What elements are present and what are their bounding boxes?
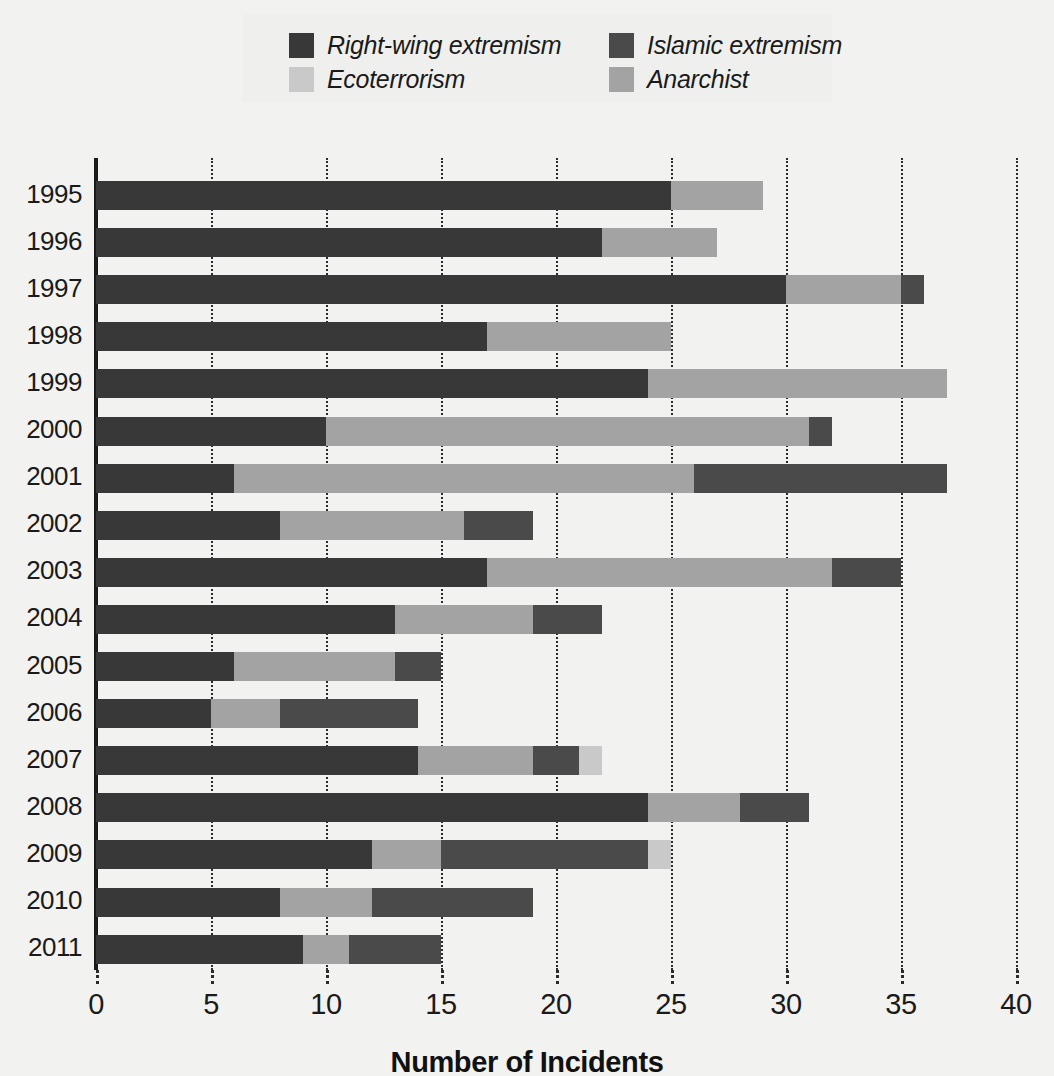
x-tick-label-0: 0 xyxy=(88,988,104,1021)
bar-segment-2005-right-wing-extremism[interactable] xyxy=(96,652,234,681)
bar-row-2005[interactable] xyxy=(0,652,1054,681)
bar-segment-2001-right-wing-extremism[interactable] xyxy=(96,464,234,493)
x-tick-label-40: 40 xyxy=(1000,988,1031,1021)
bar-segment-2006-anarchist[interactable] xyxy=(211,699,280,728)
bar-row-2004[interactable] xyxy=(0,605,1054,634)
legend-swatch-anarchist-icon xyxy=(609,67,634,92)
bar-segment-2006-islamic-extremism[interactable] xyxy=(280,699,418,728)
bar-segment-2003-right-wing-extremism[interactable] xyxy=(96,558,487,587)
bar-segment-2001-anarchist[interactable] xyxy=(234,464,694,493)
legend-swatch-islamic-icon xyxy=(609,33,634,58)
bar-segment-2004-islamic-extremism[interactable] xyxy=(533,605,602,634)
bar-row-1996[interactable] xyxy=(0,228,1054,257)
x-tick-mark-20 xyxy=(556,970,559,984)
bar-row-1995[interactable] xyxy=(0,181,1054,210)
x-axis-title: Number of Incidents xyxy=(0,1046,1054,1076)
x-tick-mark-5 xyxy=(211,970,214,984)
bar-segment-2009-islamic-extremism[interactable] xyxy=(441,840,648,869)
bar-segment-2008-anarchist[interactable] xyxy=(648,793,740,822)
legend-swatch-ecoterrorism-icon xyxy=(289,67,314,92)
bar-segment-2011-islamic-extremism[interactable] xyxy=(349,935,441,964)
chart-bars xyxy=(0,150,1054,965)
x-axis-tick-labels: 0510152025303540 xyxy=(0,988,1054,1028)
chart-plot-area: 1995199619971998199920002001200220032004… xyxy=(0,150,1054,1070)
bar-segment-1997-islamic-extremism[interactable] xyxy=(901,275,924,304)
legend-label-anarchist: Anarchist xyxy=(647,65,749,94)
legend-label-islamic: Islamic extremism xyxy=(647,31,842,60)
bar-segment-2003-anarchist[interactable] xyxy=(487,558,832,587)
legend-grid: Right-wing extremism Islamic extremism E… xyxy=(289,28,832,96)
x-tick-mark-40 xyxy=(1016,970,1019,984)
x-tick-label-10: 10 xyxy=(310,988,341,1021)
bar-segment-1996-right-wing-extremism[interactable] xyxy=(96,228,602,257)
legend-label-right-wing: Right-wing extremism xyxy=(327,31,561,60)
x-tick-mark-15 xyxy=(441,970,444,984)
legend-swatch-right-wing-icon xyxy=(289,33,314,58)
x-tick-label-20: 20 xyxy=(540,988,571,1021)
legend-entry-right-wing-extremism: Right-wing extremism xyxy=(289,31,609,60)
bar-segment-2009-anarchist[interactable] xyxy=(372,840,441,869)
legend-label-ecoterrorism: Ecoterrorism xyxy=(327,65,465,94)
legend-entry-ecoterrorism: Ecoterrorism xyxy=(289,65,609,94)
bar-segment-2007-right-wing-extremism[interactable] xyxy=(96,746,418,775)
bar-segment-2002-anarchist[interactable] xyxy=(280,511,464,540)
bar-segment-2010-right-wing-extremism[interactable] xyxy=(96,888,280,917)
bar-segment-2003-islamic-extremism[interactable] xyxy=(832,558,901,587)
bar-row-1999[interactable] xyxy=(0,369,1054,398)
bar-segment-1998-anarchist[interactable] xyxy=(487,322,671,351)
x-tick-label-30: 30 xyxy=(770,988,801,1021)
legend-entry-islamic-extremism: Islamic extremism xyxy=(609,31,842,60)
bar-segment-1995-anarchist[interactable] xyxy=(671,181,763,210)
bar-segment-2001-islamic-extremism[interactable] xyxy=(694,464,947,493)
bar-segment-2007-anarchist[interactable] xyxy=(418,746,533,775)
bar-segment-1999-anarchist[interactable] xyxy=(648,369,947,398)
bar-segment-1995-right-wing-extremism[interactable] xyxy=(96,181,671,210)
bar-row-2006[interactable] xyxy=(0,699,1054,728)
bar-segment-2010-anarchist[interactable] xyxy=(280,888,372,917)
bar-row-2011[interactable] xyxy=(0,935,1054,964)
bar-segment-1997-right-wing-extremism[interactable] xyxy=(96,275,786,304)
x-tick-mark-30 xyxy=(786,970,789,984)
bar-row-2002[interactable] xyxy=(0,511,1054,540)
bar-segment-2005-anarchist[interactable] xyxy=(234,652,395,681)
bar-row-2003[interactable] xyxy=(0,558,1054,587)
bar-row-2008[interactable] xyxy=(0,793,1054,822)
bar-row-2009[interactable] xyxy=(0,840,1054,869)
bar-segment-1999-right-wing-extremism[interactable] xyxy=(96,369,648,398)
bar-row-1998[interactable] xyxy=(0,322,1054,351)
bar-segment-2010-islamic-extremism[interactable] xyxy=(372,888,533,917)
legend-entry-anarchist: Anarchist xyxy=(609,65,842,94)
bar-row-2000[interactable] xyxy=(0,417,1054,446)
x-axis-tick-marks xyxy=(0,970,1054,986)
bar-segment-2004-anarchist[interactable] xyxy=(395,605,533,634)
bar-segment-2011-right-wing-extremism[interactable] xyxy=(96,935,303,964)
x-tick-label-15: 15 xyxy=(425,988,456,1021)
bar-segment-1996-anarchist[interactable] xyxy=(602,228,717,257)
bar-segment-2002-right-wing-extremism[interactable] xyxy=(96,511,280,540)
bar-segment-1997-anarchist[interactable] xyxy=(786,275,901,304)
bar-segment-2005-islamic-extremism[interactable] xyxy=(395,652,441,681)
bar-segment-2000-islamic-extremism[interactable] xyxy=(809,417,832,446)
bar-segment-2009-ecoterrorism[interactable] xyxy=(648,840,671,869)
bar-row-2010[interactable] xyxy=(0,888,1054,917)
x-tick-label-5: 5 xyxy=(203,988,219,1021)
bar-segment-2000-right-wing-extremism[interactable] xyxy=(96,417,326,446)
bar-segment-2006-right-wing-extremism[interactable] xyxy=(96,699,211,728)
bar-segment-2002-islamic-extremism[interactable] xyxy=(464,511,533,540)
bar-row-1997[interactable] xyxy=(0,275,1054,304)
bar-segment-2011-anarchist[interactable] xyxy=(303,935,349,964)
bar-segment-2007-ecoterrorism[interactable] xyxy=(579,746,602,775)
bar-row-2007[interactable] xyxy=(0,746,1054,775)
x-tick-mark-35 xyxy=(901,970,904,984)
bar-segment-2008-right-wing-extremism[interactable] xyxy=(96,793,648,822)
bar-row-2001[interactable] xyxy=(0,464,1054,493)
bar-segment-2007-islamic-extremism[interactable] xyxy=(533,746,579,775)
x-tick-mark-0 xyxy=(96,970,99,984)
bar-segment-2000-anarchist[interactable] xyxy=(326,417,809,446)
bar-segment-2009-right-wing-extremism[interactable] xyxy=(96,840,372,869)
bar-segment-1998-right-wing-extremism[interactable] xyxy=(96,322,487,351)
bar-segment-2004-right-wing-extremism[interactable] xyxy=(96,605,395,634)
x-tick-label-25: 25 xyxy=(655,988,686,1021)
x-tick-label-35: 35 xyxy=(885,988,916,1021)
bar-segment-2008-islamic-extremism[interactable] xyxy=(740,793,809,822)
